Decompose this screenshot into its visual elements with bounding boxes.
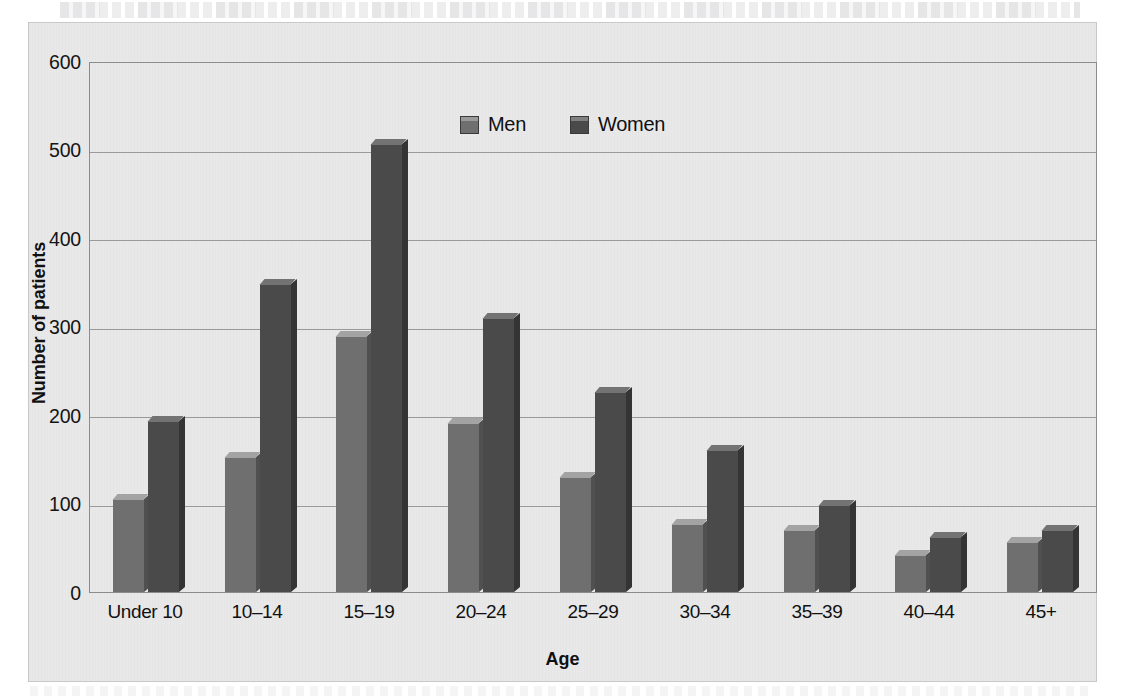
bar-side xyxy=(961,532,967,592)
bar-side xyxy=(738,444,744,592)
bar-women-25-29 xyxy=(595,392,626,592)
bar-men-25-29 xyxy=(560,477,591,592)
bar-top xyxy=(112,494,148,500)
bar-face xyxy=(483,318,514,592)
bar-men-20-24 xyxy=(448,423,479,592)
bar-top xyxy=(671,519,707,525)
bar-women-under-10 xyxy=(148,421,179,592)
y-tick-label-100: 100 xyxy=(29,493,81,516)
bar-women-45+ xyxy=(1042,530,1073,592)
bar-face xyxy=(448,423,479,592)
x-tick-label: 40–44 xyxy=(873,601,985,623)
x-axis-title: Age xyxy=(29,649,1096,670)
x-tick-label: 35–39 xyxy=(761,601,873,623)
x-tick-label: Under 10 xyxy=(89,601,201,623)
x-tick-label: 25–29 xyxy=(537,601,649,623)
bar-face xyxy=(225,457,256,592)
bar-face xyxy=(148,421,179,592)
bar-side xyxy=(1073,525,1079,592)
page-text-bleed-top xyxy=(60,2,1080,18)
x-tick-labels: Under 1010–1415–1920–2425–2930–3435–3940… xyxy=(89,601,1097,623)
bar-group xyxy=(314,63,426,592)
bar-face xyxy=(895,555,926,592)
bar-women-10-14 xyxy=(260,284,291,592)
bar-side xyxy=(514,313,520,592)
bar-side xyxy=(402,139,408,592)
bar-face xyxy=(707,450,738,592)
bar-men-15-19 xyxy=(336,336,367,592)
chart-figure: Number of patients 600 500 400 300 200 1… xyxy=(28,22,1097,682)
bar-women-30-34 xyxy=(707,450,738,592)
bar-top xyxy=(371,139,407,145)
bar-men-30-34 xyxy=(672,524,703,592)
x-tick-label: 10–14 xyxy=(201,601,313,623)
bar-top xyxy=(1007,537,1043,543)
bar-group xyxy=(761,63,873,592)
y-tick-label-400: 400 xyxy=(29,228,81,251)
bar-top xyxy=(224,452,260,458)
bar-group xyxy=(425,63,537,592)
bar-men-40-44 xyxy=(895,555,926,592)
bar-face xyxy=(371,144,402,592)
bar-women-35-39 xyxy=(819,505,850,592)
bar-group xyxy=(872,63,984,592)
bar-top xyxy=(818,500,854,506)
bar-face xyxy=(784,530,815,592)
bar-top xyxy=(594,387,630,393)
y-tick-label-600: 600 xyxy=(29,51,81,74)
bar-top xyxy=(336,331,372,337)
bar-side xyxy=(850,500,856,592)
bar-group xyxy=(202,63,314,592)
bar-top xyxy=(147,416,183,422)
bar-group xyxy=(984,63,1096,592)
bar-men-10-14 xyxy=(225,457,256,592)
bar-women-40-44 xyxy=(930,537,961,592)
bar-men-45+ xyxy=(1007,542,1038,592)
bar-men-35-39 xyxy=(784,530,815,592)
bar-face xyxy=(819,505,850,592)
bar-side xyxy=(291,279,297,592)
x-tick-label: 15–19 xyxy=(313,601,425,623)
bar-face xyxy=(113,499,144,592)
bar-face xyxy=(336,336,367,592)
bar-group xyxy=(90,63,202,592)
bar-top xyxy=(706,445,742,451)
bar-face xyxy=(595,392,626,592)
bar-face xyxy=(1007,542,1038,592)
bar-men-under-10 xyxy=(113,499,144,592)
plot-area xyxy=(89,62,1097,593)
bar-women-15-19 xyxy=(371,144,402,592)
y-tick-label-0: 0 xyxy=(29,582,81,605)
bar-side xyxy=(179,416,185,592)
bar-top xyxy=(559,472,595,478)
bar-top xyxy=(483,313,519,319)
x-tick-label: 45+ xyxy=(985,601,1097,623)
bar-top xyxy=(259,279,295,285)
bar-top xyxy=(930,532,966,538)
bar-face xyxy=(560,477,591,592)
bar-face xyxy=(930,537,961,592)
bar-women-20-24 xyxy=(483,318,514,592)
x-tick-label: 30–34 xyxy=(649,601,761,623)
bar-face xyxy=(672,524,703,592)
x-tick-label: 20–24 xyxy=(425,601,537,623)
bar-face xyxy=(260,284,291,592)
bar-top xyxy=(1042,525,1078,531)
bar-groups xyxy=(90,63,1096,592)
y-tick-label-300: 300 xyxy=(29,316,81,339)
bar-face xyxy=(1042,530,1073,592)
bar-top xyxy=(448,418,484,424)
y-tick-label-200: 200 xyxy=(29,405,81,428)
bar-side xyxy=(626,387,632,592)
bar-top xyxy=(783,525,819,531)
bar-group xyxy=(537,63,649,592)
bar-top xyxy=(895,550,931,556)
y-tick-label-500: 500 xyxy=(29,139,81,162)
bar-group xyxy=(649,63,761,592)
page-text-bleed-bottom xyxy=(30,686,1090,696)
